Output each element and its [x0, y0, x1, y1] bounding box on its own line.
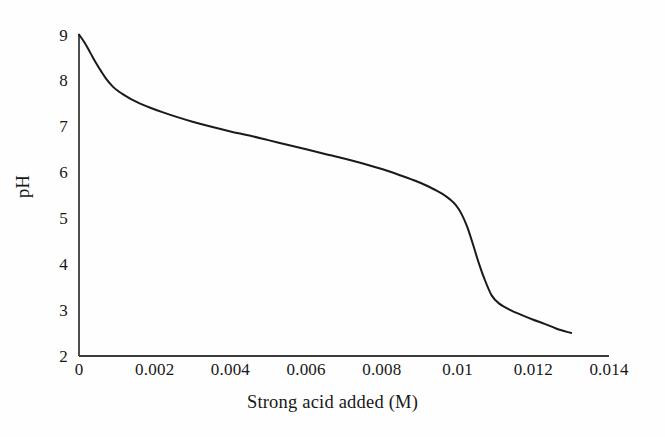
x-tick-label-2: 0.004	[211, 361, 250, 378]
y-tick-label-3: 6	[59, 164, 68, 181]
x-tick-label-0: 0	[75, 361, 84, 378]
x-tick-label-6: 0.012	[514, 361, 553, 378]
y-tick-label-7: 2	[59, 348, 68, 365]
x-tick-label-1: 0.002	[135, 361, 174, 378]
y-tick-label-0: 9	[59, 26, 68, 43]
y-axis-title: pH	[13, 175, 34, 198]
y-tick-label-4: 5	[59, 210, 68, 227]
x-tick-label-3: 0.006	[287, 361, 326, 378]
data-series-line	[79, 35, 571, 334]
x-tick-label-5: 0.01	[442, 361, 473, 378]
y-tick-label-6: 3	[59, 302, 68, 319]
x-axis-title: Strong acid added (M)	[0, 392, 665, 413]
y-tick-label-5: 4	[59, 256, 68, 273]
y-tick-label-2: 7	[59, 118, 68, 135]
y-tick-label-1: 8	[59, 72, 68, 89]
chart-figure: 0 0.002 0.004 0.006 0.008 0.01 0.012 0.0…	[0, 0, 665, 437]
x-tick-label-7: 0.014	[589, 361, 628, 378]
x-tick-label-4: 0.008	[362, 361, 401, 378]
titration-curve-plot	[0, 0, 665, 437]
